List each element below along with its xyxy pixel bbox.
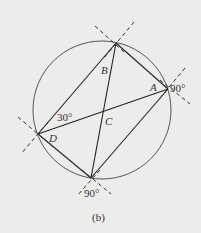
label-b: B bbox=[101, 64, 108, 76]
geometry-diagram: B A C D 30° 90° 90° (b) bbox=[0, 0, 201, 233]
label-angle-30: 30° bbox=[57, 111, 72, 123]
label-c: C bbox=[105, 115, 113, 127]
label-angle-90-right: 90° bbox=[170, 82, 185, 94]
label-d: D bbox=[48, 132, 57, 144]
label-angle-90-bottom: 90° bbox=[84, 187, 99, 199]
label-a: A bbox=[149, 81, 157, 93]
dashed-line-top-2 bbox=[104, 22, 134, 58]
figure-caption: (b) bbox=[92, 211, 105, 224]
side-top-right bbox=[116, 43, 168, 89]
